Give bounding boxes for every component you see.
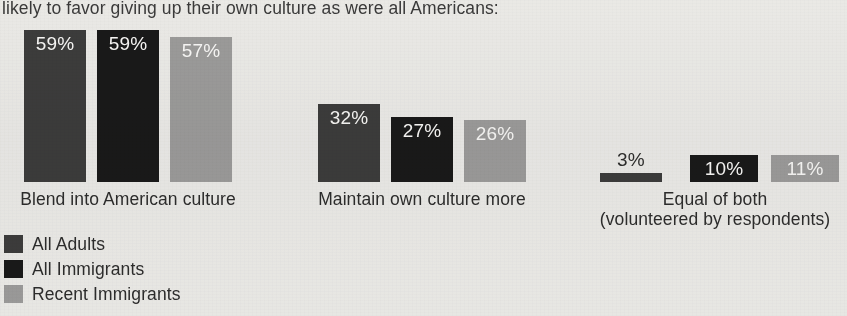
group-label-maintain: Maintain own culture more — [296, 189, 548, 209]
bar-value-label: 3% — [600, 149, 662, 171]
chart-legend: All Adults All Immigrants Recent Immigra… — [4, 231, 181, 306]
group-label-text: Blend into American culture — [20, 189, 236, 209]
bar-equal-recent-immigrants: 11% — [771, 155, 839, 182]
bar-value-label: 59% — [97, 33, 159, 55]
legend-swatch-icon — [4, 260, 23, 278]
chart-page: likely to favor giving up their own cult… — [0, 0, 847, 316]
legend-item-all-immigrants: All Immigrants — [4, 256, 181, 281]
bar-blend-all-immigrants: 59% — [97, 30, 159, 182]
group-label-text: Maintain own culture more — [318, 189, 526, 209]
bar-value-label: 26% — [464, 123, 526, 145]
bar-blend-all-adults: 59% — [24, 30, 86, 182]
legend-item-recent-immigrants: Recent Immigrants — [4, 281, 181, 306]
group-sublabel-text: (volunteered by respondents) — [583, 209, 847, 229]
bar-equal-all-immigrants: 10% — [690, 155, 758, 182]
bar-value-label: 11% — [771, 158, 839, 180]
bar-value-label: 32% — [318, 107, 380, 129]
legend-label: All Immigrants — [32, 259, 144, 279]
legend-item-all-adults: All Adults — [4, 231, 181, 256]
bar-value-label: 57% — [170, 40, 232, 62]
bar-value-label: 59% — [24, 33, 86, 55]
legend-swatch-icon — [4, 235, 23, 253]
group-label-equal: Equal of both (volunteered by respondent… — [583, 189, 847, 229]
legend-swatch-icon — [4, 285, 23, 303]
legend-label: Recent Immigrants — [32, 284, 181, 304]
bar-maintain-recent-immigrants: 26% — [464, 120, 526, 182]
bar-equal-all-adults: 3% — [600, 173, 662, 182]
group-label-text: Equal of both — [663, 189, 767, 209]
bar-maintain-all-immigrants: 27% — [391, 117, 453, 182]
bar-blend-recent-immigrants: 57% — [170, 37, 232, 182]
bar-value-label: 10% — [690, 158, 758, 180]
legend-label: All Adults — [32, 234, 105, 254]
bar-value-label: 27% — [391, 120, 453, 142]
group-label-blend: Blend into American culture — [0, 189, 256, 209]
bar-maintain-all-adults: 32% — [318, 104, 380, 182]
